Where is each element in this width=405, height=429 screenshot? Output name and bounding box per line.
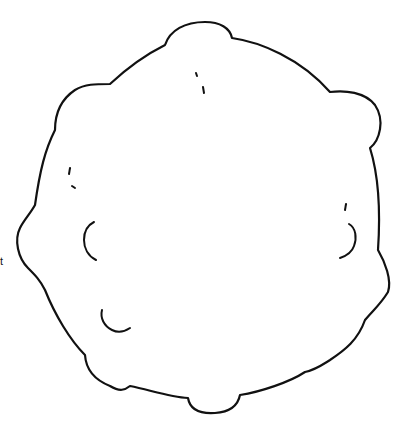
left-crater-bracket bbox=[84, 222, 96, 260]
left-tick-mark bbox=[69, 168, 70, 174]
right-tick-mark bbox=[345, 204, 346, 210]
blob-outline bbox=[17, 22, 389, 413]
bottom-crater-curve bbox=[101, 310, 130, 332]
top-tick-mark bbox=[196, 73, 197, 76]
edge-text-fragment: t bbox=[0, 256, 3, 267]
right-crater-curve bbox=[340, 224, 356, 258]
blob-outline-drawing bbox=[0, 0, 405, 429]
left-tick-mark-2 bbox=[72, 186, 75, 188]
top-tick-mark-2 bbox=[203, 87, 204, 93]
drawing-canvas: t bbox=[0, 0, 405, 429]
